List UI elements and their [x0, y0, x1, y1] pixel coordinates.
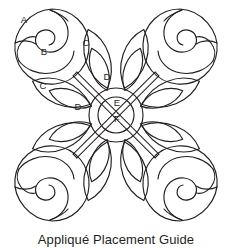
small-leaf-d-horizontal-right [138, 83, 186, 114]
label-f: F [114, 113, 120, 124]
rose-bottom-right [143, 146, 217, 221]
appliqu-placement-diagram: A B C C D D E F [0, 0, 232, 230]
small-leaf-d-horizontal-bottom-right [138, 116, 186, 147]
label-c-lower: C [40, 80, 47, 91]
label-b: B [41, 46, 47, 57]
label-d-vertical: D [104, 71, 111, 82]
label-a: A [21, 14, 28, 25]
large-leaf-c-lower-right [137, 70, 203, 115]
placement-guide-page: A B C C D D E F Appliqué Placement Guide [0, 0, 232, 248]
large-leaf-c-lower-left [28, 70, 94, 115]
small-leaf-d-horizontal-left [46, 83, 94, 114]
label-c-upper: C [83, 37, 90, 48]
large-leaf-c-lowerq-right-b [137, 114, 203, 159]
rose-top-right [143, 9, 217, 84]
large-leaf-c-lowerq-left-b [28, 114, 94, 159]
diagram-caption: Appliqué Placement Guide [0, 231, 232, 248]
appliqu-diagram-container: A B C C D D E F [0, 0, 232, 230]
label-d-horizontal: D [75, 101, 82, 112]
rose-bottom-left [15, 146, 89, 221]
label-e: E [114, 97, 120, 108]
small-leaf-d-horizontal-bottom-left [46, 116, 94, 147]
